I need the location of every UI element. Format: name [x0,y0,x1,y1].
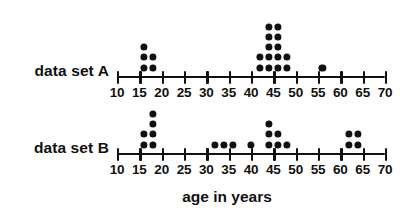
axis-tick-60 [340,71,342,84]
axis-tick-20 [162,71,164,84]
axis-tick-10 [117,71,119,84]
row-label-data-set-a: data set A [8,62,109,80]
axis-tick-label-70: 70 [378,162,393,177]
axis-tick-label-35: 35 [221,85,236,100]
axis-tick-label-40: 40 [244,162,259,177]
row-label-data-set-b: data set B [8,139,109,157]
axis-tick-label-15: 15 [132,85,147,100]
data-dot [274,23,281,30]
data-dot [274,141,281,148]
data-dot [265,44,272,51]
data-dot [283,64,290,71]
data-dot [274,131,281,138]
axis-tick-label-30: 30 [199,162,214,177]
axis-tick-25 [184,71,186,84]
data-dot [212,141,219,148]
data-dot [346,131,353,138]
axis-tick-15 [139,148,141,161]
data-dot [355,141,362,148]
axis-tick-label-45: 45 [266,162,281,177]
axis-tick-70 [385,148,387,161]
data-dot [149,64,156,71]
axis-tick-label-25: 25 [177,162,192,177]
axis-tick-10 [117,148,119,161]
axis-tick-label-20: 20 [154,85,169,100]
axis-tick-15 [139,71,141,84]
axis-tick-label-60: 60 [333,85,348,100]
dot-plot-figure: data set A 10152025303540455055606570 da… [0,0,409,215]
axis-tick-30 [206,148,208,161]
axis-tick-label-40: 40 [244,85,259,100]
data-dot [274,33,281,40]
axis-tick-label-20: 20 [154,162,169,177]
data-dot [149,110,156,117]
data-dot [319,64,326,71]
axis-tick-20 [162,148,164,161]
data-dot [221,141,228,148]
data-dot [230,141,237,148]
data-dot [265,54,272,61]
axis-tick-label-65: 65 [355,162,370,177]
data-dot [256,64,263,71]
data-dot [265,23,272,30]
axis-tick-55 [318,71,320,84]
axis-tick-label-10: 10 [110,162,125,177]
axis-tick-label-10: 10 [110,85,125,100]
axis-tick-label-55: 55 [311,162,326,177]
axis-tick-label-50: 50 [288,162,303,177]
axis-tick-35 [229,148,231,161]
data-dot [265,141,272,148]
data-dot [247,141,254,148]
data-dot [140,44,147,51]
data-dot [265,64,272,71]
axis-tick-45 [273,71,275,84]
data-dot [265,131,272,138]
axis-tick-35 [229,71,231,84]
axis-tick-60 [340,148,342,161]
axis-tick-55 [318,148,320,161]
data-dot [355,131,362,138]
data-dot [149,54,156,61]
axis-tick-45 [273,148,275,161]
data-dot [346,141,353,148]
axis-tick-65 [363,148,365,161]
axis-tick-25 [184,148,186,161]
axis-tick-40 [251,71,253,84]
axis-tick-label-70: 70 [378,85,393,100]
axis-tick-label-60: 60 [333,162,348,177]
axis-tick-50 [296,148,298,161]
data-dot [274,54,281,61]
axis-tick-70 [385,71,387,84]
axis-tick-label-55: 55 [311,85,326,100]
data-dot [149,131,156,138]
data-dot [283,141,290,148]
axis-tick-65 [363,71,365,84]
data-dot [149,121,156,128]
axis-tick-label-15: 15 [132,162,147,177]
data-dot [274,64,281,71]
data-dot [283,54,290,61]
axis-tick-label-45: 45 [266,85,281,100]
data-dot [140,141,147,148]
axis-tick-30 [206,71,208,84]
data-dot [274,44,281,51]
axis-tick-50 [296,71,298,84]
data-dot [140,131,147,138]
axis-tick-label-25: 25 [177,85,192,100]
axis-tick-label-50: 50 [288,85,303,100]
data-dot [149,141,156,148]
data-dot [140,54,147,61]
axis-tick-label-35: 35 [221,162,236,177]
data-dot [256,54,263,61]
axis-tick-40 [251,148,253,161]
axis-tick-label-65: 65 [355,85,370,100]
data-dot [265,121,272,128]
axis-tick-label-30: 30 [199,85,214,100]
data-dot [140,64,147,71]
data-dot [265,33,272,40]
axis-title-age-in-years: age in years [182,188,272,206]
